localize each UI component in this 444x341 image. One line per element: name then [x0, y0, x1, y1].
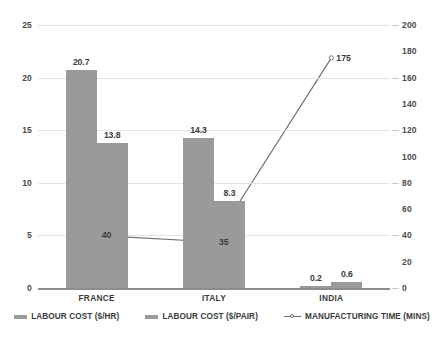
right-axis-tick-label: 100 [402, 152, 432, 162]
right-axis-tick-mark [392, 235, 399, 236]
legend-item-manufacturing-time[interactable]: MANUFACTURING TIME (MINS) [284, 312, 430, 321]
legend-label: LABOUR COST ($/HR) [31, 312, 119, 321]
right-axis-tick-label: 20 [402, 257, 432, 267]
right-axis-tick-label: 180 [402, 46, 432, 56]
line-data-point [329, 56, 333, 60]
bar [66, 70, 97, 288]
category-label: FRANCE [47, 293, 147, 303]
category-label: ITALY [164, 293, 264, 303]
bar-value-label: 14.3 [177, 125, 220, 135]
left-axis-tick-label: 15 [6, 125, 32, 135]
legend-item-labour-cost-pair[interactable]: LABOUR COST ($/PAIR) [145, 312, 258, 321]
right-axis-tick-mark [392, 130, 399, 131]
bar-swatch-icon [145, 315, 158, 319]
left-axis-tick-label: 5 [6, 230, 32, 240]
line-value-label: 175 [336, 53, 351, 63]
right-axis-tick-label: 200 [402, 20, 432, 30]
left-axis-tick-label: 25 [6, 20, 32, 30]
axis-baseline [38, 288, 390, 290]
right-axis-tick-label: 160 [402, 73, 432, 83]
bar-value-label: 20.7 [60, 57, 103, 67]
left-axis-tick-label: 10 [6, 178, 32, 188]
right-axis-tick-mark [392, 25, 399, 26]
right-axis-tick-mark [392, 78, 399, 79]
bar [300, 286, 331, 288]
gridline [38, 25, 390, 26]
left-axis-tick-label: 0 [6, 283, 32, 293]
chart-legend: LABOUR COST ($/HR) LABOUR COST ($/PAIR) … [0, 312, 444, 321]
bar-value-label: 8.3 [208, 188, 251, 198]
line-value-label: 35 [219, 237, 229, 247]
line-marker-icon [284, 313, 301, 320]
bar-swatch-icon [14, 315, 27, 319]
right-axis-tick-label: 60 [402, 204, 432, 214]
legend-label: MANUFACTURING TIME (MINS) [305, 312, 430, 321]
legend-item-labour-cost-hr[interactable]: LABOUR COST ($/HR) [14, 312, 119, 321]
right-axis-tick-mark [392, 288, 399, 289]
right-axis-tick-label: 120 [402, 125, 432, 135]
line-value-label: 40 [102, 230, 112, 240]
right-axis-tick-label: 40 [402, 230, 432, 240]
bar-value-label: 0.6 [325, 269, 368, 279]
bar [97, 143, 128, 288]
left-axis-tick-label: 20 [6, 73, 32, 83]
chart-container: LABOUR COST ($/HR) LABOUR COST ($/PAIR) … [0, 0, 444, 341]
right-axis-tick-label: 0 [402, 283, 432, 293]
right-axis-tick-label: 140 [402, 99, 432, 109]
legend-label: LABOUR COST ($/PAIR) [162, 312, 258, 321]
right-axis-tick-label: 80 [402, 178, 432, 188]
category-label: INDIA [281, 293, 381, 303]
bar [183, 138, 214, 288]
right-axis-tick-mark [392, 183, 399, 184]
bar-value-label: 13.8 [91, 130, 134, 140]
